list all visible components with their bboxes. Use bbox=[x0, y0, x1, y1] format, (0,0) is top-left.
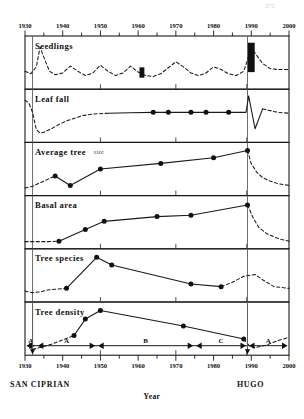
chart-panel: Average treesize bbox=[25, 142, 289, 195]
bottom-axis-tick-label: 2000 bbox=[282, 362, 296, 369]
data-point-marker bbox=[226, 110, 231, 115]
data-point-marker bbox=[204, 110, 209, 115]
data-point-marker bbox=[188, 213, 193, 218]
phase-axis: AABCA bbox=[27, 337, 288, 349]
data-series-line bbox=[108, 96, 263, 129]
phase-arrow-right bbox=[188, 343, 194, 349]
bottom-axis-tick-label: 1970 bbox=[169, 362, 183, 369]
top-axis-tick-label: 1990 bbox=[245, 22, 259, 29]
data-series-line bbox=[25, 100, 108, 133]
data-point-marker bbox=[181, 324, 186, 329]
chart-panel: Leaf fall bbox=[25, 89, 289, 142]
top-axis-tick-label: 1950 bbox=[94, 22, 108, 29]
panel-title: Seedlings bbox=[35, 41, 73, 51]
top-axis-tick-label: 1930 bbox=[18, 22, 32, 29]
seedling-pulse-bar bbox=[248, 43, 255, 72]
phase-arrow-left bbox=[196, 343, 202, 349]
panel-title: Tree species bbox=[35, 253, 84, 263]
top-axis-tick-label: 1980 bbox=[207, 22, 221, 29]
data-point-marker bbox=[56, 239, 61, 244]
data-series-line bbox=[221, 275, 289, 289]
top-axis-tick-label: 1970 bbox=[169, 22, 183, 29]
bottom-axis-tick-label: 1930 bbox=[18, 362, 32, 369]
phase-arrow-left bbox=[249, 343, 255, 349]
phase-label: B bbox=[143, 337, 148, 345]
data-point-marker bbox=[151, 110, 156, 115]
data-point-marker bbox=[68, 183, 73, 188]
data-point-marker bbox=[188, 110, 193, 115]
data-point-marker bbox=[83, 317, 88, 322]
bottom-axis-tick-label: 1940 bbox=[56, 362, 70, 369]
event-pointer-arrow bbox=[30, 349, 35, 354]
chart-panel: Tree density bbox=[25, 302, 289, 355]
top-axis-tick-label: 1940 bbox=[56, 22, 70, 29]
data-point-marker bbox=[53, 173, 58, 178]
phase-arrow-right bbox=[90, 343, 96, 349]
phase-label: A bbox=[64, 337, 69, 345]
chart-panel: Seedlings bbox=[25, 36, 289, 89]
event-pointer-arrow bbox=[245, 349, 250, 354]
panel-stack: SeedlingsLeaf fallAverage treesizeBasal … bbox=[25, 36, 289, 355]
phase-arrow-left bbox=[98, 343, 104, 349]
top-axis: 19301940195019601970198019902000 bbox=[18, 22, 296, 36]
data-series-line bbox=[25, 288, 66, 292]
phase-label: C bbox=[219, 337, 224, 345]
panel-title: Leaf fall bbox=[35, 94, 70, 104]
panel-title: Basal area bbox=[35, 200, 78, 210]
data-series-line bbox=[66, 257, 221, 288]
x-axis-title: Year bbox=[144, 392, 161, 401]
seedling-pulse-bar bbox=[139, 67, 144, 77]
data-series-line bbox=[59, 205, 248, 241]
data-series-line bbox=[74, 310, 244, 339]
bottom-axis-tick-label: 1980 bbox=[207, 362, 221, 369]
chart-panel: Tree species bbox=[25, 249, 289, 302]
data-point-marker bbox=[188, 282, 193, 287]
data-point-marker bbox=[98, 167, 103, 172]
data-point-marker bbox=[102, 219, 107, 224]
data-series-line bbox=[248, 150, 289, 185]
page-number: 272 bbox=[266, 3, 275, 9]
data-point-marker bbox=[155, 214, 160, 219]
hurricane-event-label: SAN CIPRIAN bbox=[10, 380, 70, 389]
data-point-marker bbox=[94, 255, 99, 260]
panel-title: Tree density bbox=[35, 307, 85, 317]
chronosequence-figure: 272 19301940195019601970198019902000 See… bbox=[0, 0, 304, 419]
data-point-marker bbox=[83, 227, 88, 232]
data-series-line bbox=[263, 109, 289, 113]
panel-title-suffix: size bbox=[94, 148, 104, 155]
data-series-line bbox=[25, 176, 55, 188]
event-label-group: SAN CIPRIANHUGO bbox=[10, 380, 264, 389]
data-point-marker bbox=[98, 308, 103, 313]
data-point-marker bbox=[64, 286, 69, 291]
data-point-marker bbox=[211, 155, 216, 160]
top-axis-tick-label: 2000 bbox=[282, 22, 296, 29]
hurricane-event-label: HUGO bbox=[237, 380, 264, 389]
panel-title: Average tree bbox=[35, 147, 86, 157]
data-point-marker bbox=[158, 161, 163, 166]
bottom-axis-tick-label: 1950 bbox=[94, 362, 108, 369]
top-axis-tick-label: 1960 bbox=[132, 22, 146, 29]
figure-root: 272 19301940195019601970198019902000 See… bbox=[0, 0, 304, 419]
data-series-line bbox=[248, 205, 289, 241]
bottom-axis-tick-label: 1990 bbox=[245, 362, 259, 369]
phase-arrow-right bbox=[282, 343, 288, 349]
chart-panel: Basal area bbox=[25, 196, 289, 249]
data-point-marker bbox=[109, 263, 114, 268]
phase-label: A bbox=[266, 337, 271, 345]
data-point-marker bbox=[166, 110, 171, 115]
phase-arrow-right bbox=[241, 343, 247, 349]
bottom-axis-tick-label: 1960 bbox=[132, 362, 146, 369]
data-point-marker bbox=[72, 333, 77, 338]
